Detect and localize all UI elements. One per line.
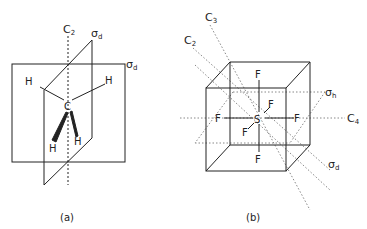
symmetry-diagram: C H H H H C2 σd σd (a) [0,0,367,229]
wedge-bond [70,111,78,137]
atom-f: F [242,127,248,138]
figure-b [180,25,345,210]
sigma-d-label: σd [91,27,102,41]
atom-h: H [49,143,57,154]
bond [72,84,105,100]
atom-f: F [215,113,221,124]
atom-f: F [255,69,261,80]
atom-h: H [25,76,33,87]
symmetry-elements [180,25,345,210]
atom-s: S [254,114,260,125]
c2-label: C2 [184,34,196,48]
figure-b-labels: S F F F F F F C3 C2 σh C4 σd (b) [184,11,360,223]
c2-label: C2 [63,23,75,37]
atom-f: F [255,154,261,165]
caption-b: (b) [246,212,260,223]
atom-c: C [64,101,71,112]
atom-h: H [74,136,82,147]
wedge-bond [52,112,68,142]
c2-axis [193,48,330,170]
sigma-d-label: σd [126,58,137,72]
atom-h: H [105,75,113,86]
sigma-d-label: σd [328,158,339,172]
atom-f: F [294,113,300,124]
sigma-h-label: σh [325,86,336,100]
caption-a: (a) [60,212,74,223]
atom-f: F [268,99,274,110]
c4-label: C4 [347,112,360,126]
figure-a-labels: C H H H H C2 σd σd (a) [25,23,137,223]
c3-label: C3 [205,11,217,25]
